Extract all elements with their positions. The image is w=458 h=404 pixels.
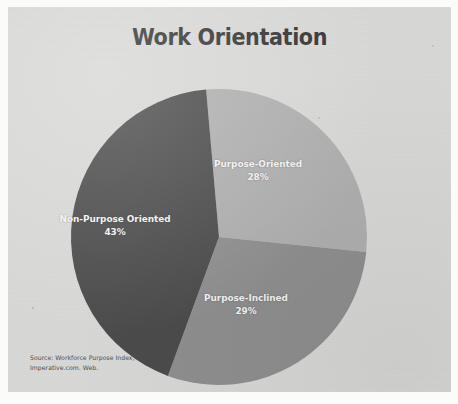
pie-label-non-purpose-oriented: Non-Purpose Oriented 43% (25, 212, 206, 238)
pie-label-purpose-oriented: Purpose-Oriented 28% (192, 157, 325, 183)
pie-label-purpose-inclined-value: 29% (180, 304, 313, 317)
source-note: Source: Workforce Purpose Index, Imperat… (30, 353, 135, 372)
source-note-line-2: Imperative.com. Web. (30, 363, 135, 373)
pie-label-purpose-inclined-name: Purpose-Inclined (204, 292, 288, 303)
pie-label-purpose-inclined: Purpose-Inclined 29% (180, 291, 313, 317)
pie-label-non-purpose-oriented-value: 43% (25, 225, 206, 238)
chart-panel: Work Orientation Purpose-Oriented 28% Pu… (8, 7, 451, 392)
pie-label-purpose-oriented-name: Purpose-Oriented (214, 158, 302, 169)
pie-label-non-purpose-oriented-name: Non-Purpose Oriented (60, 213, 171, 224)
pie-chart: Purpose-Oriented 28% Purpose-Inclined 29… (8, 7, 451, 392)
figure-root: Work Orientation Purpose-Oriented 28% Pu… (0, 0, 458, 404)
source-note-line-1: Source: Workforce Purpose Index, (30, 353, 135, 363)
pie-chart-svg (8, 7, 451, 392)
pie-label-purpose-oriented-value: 28% (192, 170, 325, 183)
